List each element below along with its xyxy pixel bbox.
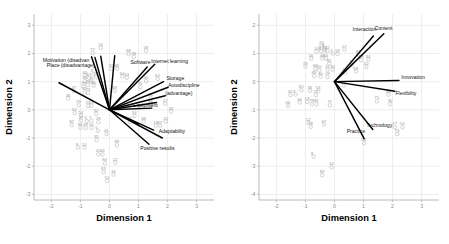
- y-tick-label: 2: [28, 50, 31, 56]
- data-point: 73: [395, 128, 400, 136]
- data-point-label: 60: [317, 64, 322, 69]
- data-point-label: 29: [325, 71, 330, 76]
- biplot-right-canvas: -2-10123-4-3-2-1012259100512221715887564…: [225, 0, 449, 244]
- data-point-label: 78: [308, 121, 313, 126]
- x-tick-label: -2: [49, 203, 54, 209]
- data-point-label: 66: [285, 100, 290, 105]
- data-point-label: 73: [85, 87, 90, 92]
- biplot-left-canvas: -2-10123-3-2-101231477685928314664436367…: [0, 0, 224, 244]
- data-point-label: 71: [327, 99, 332, 104]
- data-point-label: 29: [76, 99, 81, 104]
- vector-label: Storage: [166, 75, 184, 81]
- vector-label: Technology: [366, 122, 392, 128]
- x-tick-label: 2: [166, 203, 169, 209]
- data-point: 89: [114, 139, 119, 147]
- x-axis-title: Dimension 1: [321, 213, 376, 223]
- data-point: 73: [85, 87, 90, 95]
- x-axis-title: Dimension 1: [96, 213, 151, 223]
- data-point-label: 14: [98, 42, 103, 47]
- data-point: 14: [329, 161, 334, 169]
- data-point-label: 16: [111, 169, 116, 174]
- data-point: 51: [105, 175, 110, 183]
- data-point: 58: [335, 48, 340, 56]
- data-point: 30: [388, 98, 393, 106]
- vector-label: Practice: [347, 128, 366, 134]
- data-point-label: 28: [131, 51, 136, 56]
- variable-vector: Flexibility: [334, 82, 416, 97]
- x-tick-label: 2: [391, 203, 394, 209]
- data-point: 16: [111, 169, 116, 177]
- data-point: 68: [141, 116, 146, 124]
- data-point-label: 77: [90, 47, 95, 52]
- vector-label: Positive results: [140, 145, 175, 151]
- biplot-panel-right: -2-10123-4-3-2-1012259100512221715887564…: [225, 0, 449, 244]
- data-point-label: 35: [94, 134, 99, 139]
- data-point-label: 56: [400, 121, 405, 126]
- data-point-label: 41: [104, 128, 109, 133]
- data-point-label: 44: [100, 148, 105, 153]
- data-point: 82: [69, 119, 74, 127]
- data-point-label: 79: [303, 61, 308, 66]
- x-tick-label: 3: [420, 203, 423, 209]
- data-point-label: 83: [320, 169, 325, 174]
- data-point-label: 34: [132, 110, 137, 115]
- data-point-label: 42: [364, 61, 369, 66]
- data-point: 35: [94, 134, 99, 142]
- data-point-label: 51: [105, 175, 110, 180]
- vector-label: Interaction: [352, 26, 376, 32]
- data-point: 32: [94, 108, 99, 116]
- data-point: 76: [138, 81, 143, 89]
- y-tick-label: 0: [253, 79, 256, 85]
- data-point-label: 80: [91, 80, 96, 85]
- y-tick-label: 1: [28, 79, 31, 85]
- data-point-label: 49: [83, 122, 88, 127]
- x-tick-label: 3: [195, 203, 198, 209]
- variable-vector: Practice: [334, 82, 365, 139]
- data-point: 56: [309, 53, 314, 61]
- data-point-label: 59: [143, 45, 148, 50]
- data-point-label: 75: [374, 95, 379, 100]
- x-tick-label: -1: [303, 203, 308, 209]
- data-point-label: 32: [94, 108, 99, 113]
- data-point-label: 81: [314, 98, 319, 103]
- x-tick-label: 1: [362, 203, 365, 209]
- y-tick-label: -4: [251, 191, 256, 197]
- vector-line: [334, 34, 383, 82]
- y-tick-label: -3: [26, 191, 31, 197]
- data-point-label: 73: [395, 128, 400, 133]
- data-point-label: 67: [321, 119, 326, 124]
- figure-container: -2-10123-3-2-101231477685928314664436367…: [0, 0, 449, 244]
- data-point-label: 17: [163, 98, 168, 103]
- data-point: 65: [299, 84, 304, 92]
- data-point: 89: [112, 85, 117, 93]
- data-point-label: 67: [157, 120, 162, 125]
- x-tick-label: 1: [137, 203, 140, 209]
- y-axis-title: Dimension 2: [4, 79, 14, 134]
- data-point-label: 56: [309, 53, 314, 58]
- y-tick-label: -2: [251, 135, 256, 141]
- variable-vector: Innovation: [334, 74, 424, 81]
- data-point: 67: [157, 120, 162, 128]
- data-point: 43: [124, 72, 129, 80]
- data-point-label: 62: [155, 73, 160, 78]
- data-point-label: 79: [81, 81, 86, 86]
- y-tick-label: -1: [251, 107, 256, 113]
- data-point: 36: [307, 85, 312, 93]
- data-point: 22: [113, 157, 118, 165]
- data-point: 17: [342, 44, 347, 52]
- data-point-label: 76: [138, 81, 143, 86]
- x-tick-label: 0: [333, 203, 336, 209]
- y-tick-label: 1: [253, 50, 256, 56]
- data-point-label: 30: [388, 98, 393, 103]
- data-point-label: 65: [299, 84, 304, 89]
- data-point: 14: [98, 42, 103, 50]
- vector-line: [334, 36, 373, 82]
- data-point: 28: [131, 51, 136, 59]
- data-point: 71: [327, 99, 332, 107]
- y-axis-title: Dimension 2: [229, 79, 239, 134]
- data-point-label: 27: [78, 115, 83, 120]
- data-point-label: 60: [143, 75, 148, 80]
- data-point-label: 46: [114, 63, 119, 68]
- y-tick-label: -3: [251, 163, 256, 169]
- y-tick-label: 3: [28, 22, 31, 28]
